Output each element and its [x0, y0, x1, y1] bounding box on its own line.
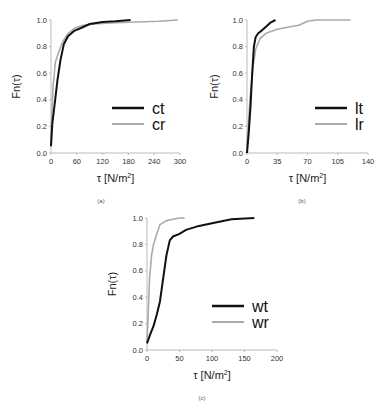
panel-3-y-tick-label: 1.0	[133, 214, 143, 223]
panel-1-y-tick-label: 1.0	[37, 16, 47, 25]
panel-3-x-axis-title: τ [N/m2]	[193, 369, 231, 381]
panel-1-x-tick-label: 120	[96, 157, 109, 166]
panel-1-caption: (a)	[97, 198, 104, 204]
figure-canvas: 0.00.20.40.60.81.0060120180240300Fn(τ)τ …	[0, 0, 388, 413]
panel-2-y-tick-label: 0.4	[233, 95, 243, 104]
panel-3-x-tick-label: 150	[238, 354, 251, 363]
panel-1-y-tick-label: 0.2	[37, 122, 47, 131]
panel-1-y-tick-label: 0.0	[37, 149, 47, 158]
panel-1-legend-label-cr: cr	[152, 116, 166, 133]
panel-3-series-wt	[147, 218, 254, 343]
panel-3-x-tick-label: 200	[271, 354, 284, 363]
panel-2-x-tick-label: 105	[331, 157, 344, 166]
panel-2-caption: (b)	[298, 198, 305, 204]
panel-3-caption: (c)	[199, 395, 206, 401]
panel-3-x-tick-label: 100	[206, 354, 219, 363]
panel-1-x-tick-label: 300	[174, 157, 187, 166]
panel-3-y-tick-label: 0.2	[133, 319, 143, 328]
panel-2-series-lr	[247, 20, 351, 146]
panel-3-x-tick-label: 50	[175, 354, 183, 363]
panel-1-y-axis-title: Fn(τ)	[10, 74, 22, 99]
panel-2-series-lt	[247, 20, 276, 153]
panel-2-y-tick-label: 0.2	[233, 122, 243, 131]
panel-1-x-tick-label: 240	[148, 157, 161, 166]
panel-3-y-tick-label: 0.6	[133, 266, 143, 275]
panel-1-legend-label-ct: ct	[152, 100, 165, 117]
panel-1-x-tick-label: 0	[49, 157, 53, 166]
panel-1-series-ct	[51, 20, 131, 146]
panel-3-y-tick-label: 0.0	[133, 346, 143, 355]
panel-2-y-tick-label: 0.8	[233, 42, 243, 51]
panel-2-y-tick-label: 1.0	[233, 16, 243, 25]
panel-1-y-tick-label: 0.8	[37, 42, 47, 51]
panel-2-x-axis-title: τ [N/m2]	[289, 172, 327, 184]
panel-3-legend-label-wt: wt	[251, 298, 269, 315]
panel-1-y-tick-label: 0.6	[37, 69, 47, 78]
panel-3-series-wr	[147, 218, 185, 343]
panel-1-x-tick-label: 60	[73, 157, 81, 166]
panel-2-legend-label-lt: lt	[355, 100, 364, 117]
panel-2-x-tick-label: 0	[245, 157, 249, 166]
panel-3-y-axis-title: Fn(τ)	[106, 272, 118, 297]
panel-3-x-tick-label: 0	[145, 354, 149, 363]
panel-2-x-tick-label: 35	[273, 157, 281, 166]
panel-2-legend-label-lr: lr	[355, 116, 365, 133]
panel-3-y-tick-label: 0.8	[133, 240, 143, 249]
panel-1-x-tick-label: 180	[122, 157, 135, 166]
panel-2-x-tick-label: 140	[362, 157, 375, 166]
panel-3-legend-label-wr: wr	[251, 314, 270, 331]
panel-2-y-tick-label: 0.0	[233, 149, 243, 158]
panel-2-y-tick-label: 0.6	[233, 69, 243, 78]
panel-3-y-tick-label: 0.4	[133, 293, 143, 302]
panel-1-x-axis-title: τ [N/m2]	[97, 172, 135, 184]
panel-1-y-tick-label: 0.4	[37, 95, 47, 104]
panel-2-y-axis-title: Fn(τ)	[208, 74, 220, 99]
panel-2-x-tick-label: 70	[303, 157, 311, 166]
